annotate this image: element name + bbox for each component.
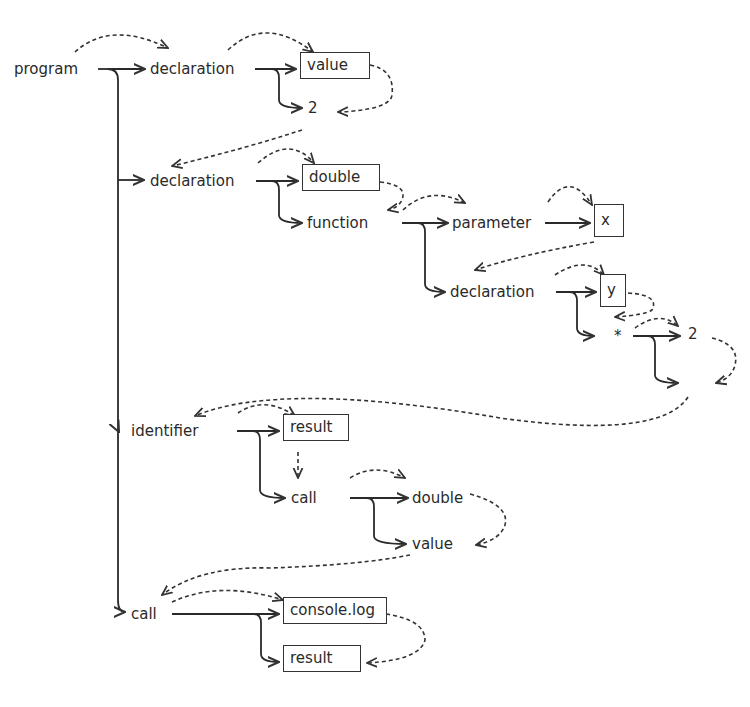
node-program: program xyxy=(14,60,78,78)
node-console-log-box: console.log xyxy=(283,597,387,624)
node-identifier: identifier xyxy=(131,422,198,440)
node-parameter: parameter xyxy=(452,214,531,232)
node-x-box: x xyxy=(594,204,624,237)
node-y-box: y xyxy=(600,274,626,307)
node-declaration: declaration xyxy=(150,60,234,78)
node-function: function xyxy=(307,214,368,232)
node-double: double xyxy=(412,489,463,507)
node-value: value xyxy=(412,535,453,553)
node-double-box: double xyxy=(302,164,380,191)
node-declaration: declaration xyxy=(450,283,534,301)
node-result-box: result xyxy=(283,645,361,672)
evaluation-order-edges xyxy=(75,33,736,663)
node-result-box: result xyxy=(283,414,349,441)
node-call: call xyxy=(131,605,157,623)
tree-edges xyxy=(98,69,680,662)
node-value-box: value xyxy=(300,52,370,79)
node-two: 2 xyxy=(308,99,318,117)
node-multiply: * xyxy=(614,327,622,345)
node-call: call xyxy=(291,489,317,507)
node-declaration: declaration xyxy=(150,172,234,190)
node-two: 2 xyxy=(688,325,698,343)
